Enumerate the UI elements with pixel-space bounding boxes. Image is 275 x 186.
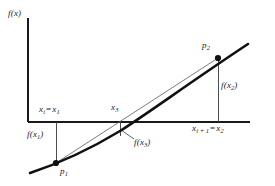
figure-canvas	[0, 0, 275, 186]
fx1-label: f(x1)	[27, 130, 44, 139]
x1-axis-label: xi=x1	[39, 105, 60, 114]
p1-label: p1	[60, 167, 68, 176]
p2-label: p2	[202, 41, 210, 50]
fx2-label: f(x2)	[221, 81, 238, 90]
secant-line	[56, 58, 218, 163]
point-p1-marker	[53, 160, 59, 166]
fx3-leader-line	[121, 130, 134, 139]
function-curve	[30, 44, 248, 173]
x2-axis-label: xi + 1=x2	[192, 124, 224, 133]
figure-root: f(x) xi=x1 x3 xi + 1=x2 f(x1) f(x2) f(x3…	[0, 0, 275, 186]
point-p2-marker	[215, 55, 221, 61]
x3-axis-label: x3	[111, 103, 118, 112]
y-axis-label: f(x)	[8, 9, 21, 18]
fx3-label: f(x3)	[134, 138, 151, 147]
